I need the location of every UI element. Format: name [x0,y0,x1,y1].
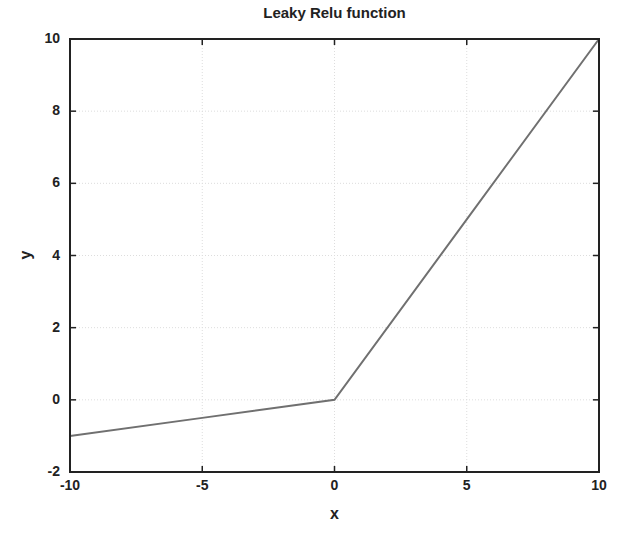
x-axis-label: x [70,505,599,523]
x-tick-label: -10 [50,477,90,493]
grid-lines [70,39,599,472]
y-tick-label: 2 [20,319,60,335]
y-tick-label: 6 [20,174,60,190]
x-tick-label: 5 [447,477,487,493]
y-tick-label: -2 [20,463,60,479]
y-tick-label: 8 [20,102,60,118]
y-tick-label: 10 [20,30,60,46]
x-tick-label: 0 [315,477,355,493]
y-tick-label: 0 [20,391,60,407]
chart-title: Leaky Relu function [70,4,599,21]
y-tick-label: 4 [20,247,60,263]
x-tick-label: -5 [182,477,222,493]
x-tick-label: 10 [579,477,619,493]
plot-area [0,0,631,547]
